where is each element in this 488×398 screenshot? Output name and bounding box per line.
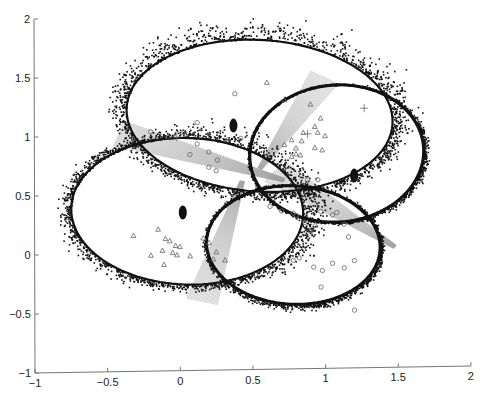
x-tick-label: −0.5 — [97, 376, 119, 388]
y-tick-label: 1.5 — [15, 72, 30, 84]
x-tick-label: 1 — [323, 372, 329, 384]
x-tick-label: 0.5 — [245, 374, 260, 386]
dark-blob — [350, 169, 358, 183]
left-ellipse — [57, 118, 333, 293]
y-tick-label: 1 — [24, 131, 30, 143]
y-tick-label: 2 — [24, 13, 30, 25]
scatter-plot: −1−0.500.511.52 −1−0.500.511.52 — [0, 0, 488, 398]
y-tick-label: 0 — [25, 249, 31, 261]
y-tick-label: −1 — [18, 367, 31, 379]
y-tick-label: −0.5 — [9, 308, 31, 320]
x-tick-label: 0 — [177, 375, 183, 387]
y-tick-label: 0.5 — [15, 190, 30, 202]
dark-blob — [229, 119, 237, 133]
x-tick-label: 2 — [468, 370, 474, 382]
plot-area — [57, 18, 430, 313]
x-tick-labels: −1−0.500.511.52 — [29, 362, 474, 389]
x-tick-label: 1.5 — [391, 371, 406, 383]
dark-blob — [179, 206, 187, 220]
